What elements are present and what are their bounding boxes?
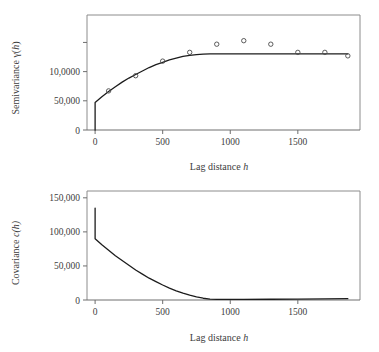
- x-axis-tick-labels: 050010001500: [93, 137, 308, 147]
- data-point-marker: [269, 42, 273, 46]
- data-point-marker: [215, 42, 219, 46]
- y-axis-tick-labels: 050,000100,000150,000: [49, 193, 80, 305]
- x-axis-title: Lag distance h: [190, 161, 248, 172]
- y-axis-tick-labels: 050,00010,0000: [49, 67, 80, 135]
- y-tick-label: 0: [75, 296, 80, 306]
- x-tick-label: 500: [156, 137, 171, 147]
- y-tick-label: 0: [75, 126, 80, 136]
- y-tick-label: 150,000: [49, 193, 80, 203]
- fitted-model-curve: [95, 54, 348, 130]
- x-tick-label: 500: [156, 307, 171, 317]
- y-tick-label: 10,0000: [49, 67, 80, 77]
- y-tick-label: 100,000: [49, 227, 80, 237]
- y-axis-title: Semivariance γ(h): [10, 41, 22, 114]
- semivariogram-svg: 050010001500 050,00010,0000 Lag distance…: [0, 0, 379, 180]
- plot-frame: [87, 191, 360, 300]
- data-point-marker: [188, 50, 192, 54]
- y-axis-ticks: [83, 42, 87, 130]
- x-tick-label: 0: [93, 137, 98, 147]
- y-axis-ticks: [83, 198, 87, 300]
- plot-frame: [87, 15, 360, 130]
- x-axis-tick-labels: 050010001500: [93, 307, 308, 317]
- covariance-plot-area: [83, 191, 360, 304]
- semivariogram-panel: 050010001500 050,00010,0000 Lag distance…: [0, 0, 379, 180]
- covariance-panel: 050010001500 050,000100,000150,000 Lag d…: [0, 178, 379, 352]
- semivariogram-plot-area: [83, 15, 360, 134]
- covariance-curve: [95, 208, 348, 299]
- data-point-marker: [242, 38, 246, 42]
- x-tick-label: 1500: [288, 137, 307, 147]
- y-tick-label: 50,000: [54, 261, 80, 271]
- x-axis-ticks: [87, 300, 360, 304]
- x-tick-label: 1000: [221, 307, 240, 317]
- x-tick-label: 1500: [288, 307, 307, 317]
- figure-page: 050010001500 050,00010,0000 Lag distance…: [0, 0, 379, 352]
- empirical-points: [106, 38, 350, 93]
- y-tick-label: 50,000: [54, 96, 80, 106]
- x-axis-title: Lag distance h: [190, 332, 248, 343]
- y-axis-title: Covariance c(h): [10, 220, 22, 285]
- x-axis-ticks: [87, 130, 360, 134]
- x-tick-label: 0: [93, 307, 98, 317]
- x-tick-label: 1000: [221, 137, 240, 147]
- covariance-svg: 050010001500 050,000100,000150,000 Lag d…: [0, 178, 379, 352]
